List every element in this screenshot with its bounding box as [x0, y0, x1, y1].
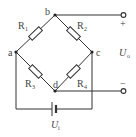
svg-text:3: 3 — [32, 84, 35, 90]
node-b — [53, 13, 56, 16]
svg-text:o: o — [127, 53, 130, 59]
svg-text:4: 4 — [84, 84, 87, 90]
label-r2: R 2 — [77, 20, 87, 32]
output-terminal-plus — [121, 13, 126, 18]
label-output-voltage: U o — [119, 47, 130, 59]
label-r3: R 3 — [25, 78, 35, 90]
label-node-a: a — [8, 47, 13, 58]
output-plus-sign: + — [120, 18, 126, 29]
svg-text:U: U — [119, 47, 127, 58]
svg-text:1: 1 — [25, 26, 28, 32]
label-node-c: c — [96, 47, 101, 58]
output-terminal-minus — [121, 89, 126, 94]
svg-text:R: R — [77, 78, 84, 89]
label-r1: R 1 — [18, 20, 28, 32]
label-r4: R 4 — [77, 78, 87, 90]
resistor-r4 — [67, 65, 81, 79]
node-c — [90, 50, 93, 53]
svg-text:2: 2 — [84, 26, 87, 32]
svg-text:R: R — [18, 20, 25, 31]
svg-text:R: R — [25, 78, 32, 89]
resistor-r1 — [29, 27, 43, 40]
label-node-b: b — [45, 6, 50, 17]
svg-text:i: i — [58, 125, 60, 131]
resistor-r3 — [29, 65, 43, 79]
output-minus-sign: − — [120, 78, 126, 89]
label-input-voltage: U i — [51, 119, 60, 131]
label-node-d: d — [53, 79, 58, 90]
battery-icon — [52, 102, 56, 116]
node-a — [14, 50, 17, 53]
svg-text:R: R — [77, 20, 84, 31]
bridge-circuit: b a c d R 1 R 2 R 3 R 4 + − U o U i — [0, 0, 136, 137]
